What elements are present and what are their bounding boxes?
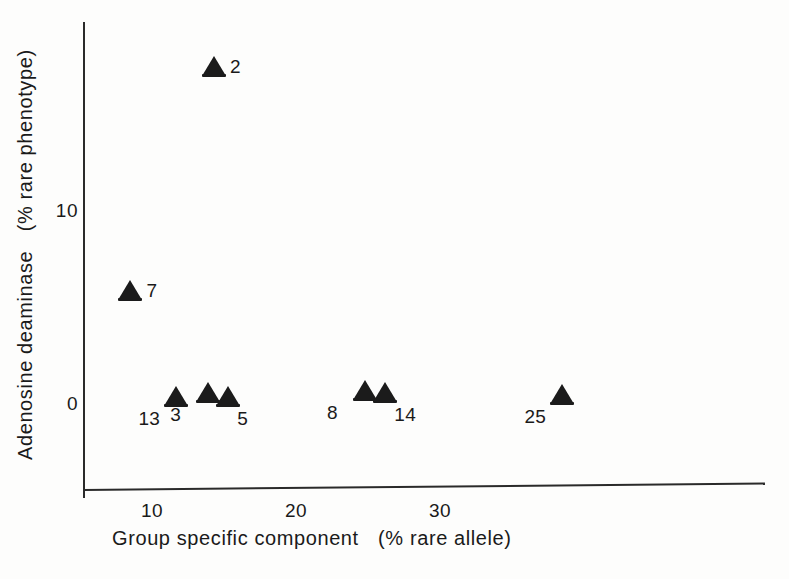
data-point-label: 8 (327, 402, 338, 424)
x-axis-title-part2: (% rare allele) (378, 527, 511, 549)
plot-area: 27133581425 (85, 22, 765, 489)
y-axis-title-part2: (% rare phenotype) (14, 49, 36, 231)
scatter-plot-figure: 102030 010 27133581425 Group specific co… (0, 0, 789, 579)
data-point-marker (550, 384, 574, 404)
y-tick-label-0: 0 (67, 393, 78, 415)
y-tick-label-10: 10 (56, 200, 78, 222)
x-axis-title: Group specific component (% rare allele) (112, 527, 512, 550)
data-point-marker (164, 386, 188, 406)
x-tick-label-10: 10 (141, 500, 163, 522)
x-axis-title-part1: Group specific component (112, 527, 359, 549)
data-point-label: 2 (230, 56, 241, 78)
x-tick-label-30: 30 (429, 500, 451, 522)
data-point-label: 3 (170, 404, 181, 426)
data-point-label: 5 (237, 408, 248, 430)
data-point-label: 14 (394, 404, 416, 426)
data-point-label: 25 (524, 406, 546, 428)
x-tick-label-20: 20 (285, 500, 307, 522)
data-point-label: 7 (146, 280, 157, 302)
data-point-marker (118, 280, 142, 300)
y-axis-title: Adenosine deaminase (% rare phenotype) (14, 49, 37, 460)
data-point-marker (373, 382, 397, 402)
data-point-marker (202, 56, 226, 76)
y-axis-title-part1: Adenosine deaminase (14, 251, 36, 460)
data-point-label: 13 (138, 408, 160, 430)
data-point-marker (216, 386, 240, 406)
